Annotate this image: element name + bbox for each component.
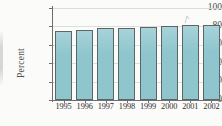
bar-2002 <box>203 25 220 100</box>
x-tick-label-1995: 1995 <box>53 103 74 111</box>
bar-1998 <box>118 28 135 100</box>
x-tick-label-2000: 2000 <box>159 103 180 111</box>
bar-1999 <box>140 27 157 100</box>
scan-edge-artifact <box>0 30 3 86</box>
y-axis-title-label: Percent <box>16 48 26 78</box>
x-tick-label-1996: 1996 <box>74 103 95 111</box>
x-tick-label-2002: 2002 <box>201 103 222 111</box>
bar-1995 <box>55 31 72 100</box>
x-axis-line <box>52 100 222 101</box>
bar-chart-figure: Percent 0 20 40 60 80 100 19951996199719… <box>0 0 222 126</box>
gridline-100 <box>53 8 222 9</box>
x-tick-label-1998: 1998 <box>116 103 137 111</box>
plot-area <box>53 8 222 100</box>
bar-1996 <box>76 30 93 100</box>
x-tick-label-2001: 2001 <box>180 103 201 111</box>
x-tick-label-1997: 1997 <box>95 103 116 111</box>
bar-2001 <box>182 25 199 100</box>
bar-2000 <box>161 26 178 100</box>
x-tick-label-1999: 1999 <box>138 103 159 111</box>
bar-1997 <box>97 28 114 100</box>
